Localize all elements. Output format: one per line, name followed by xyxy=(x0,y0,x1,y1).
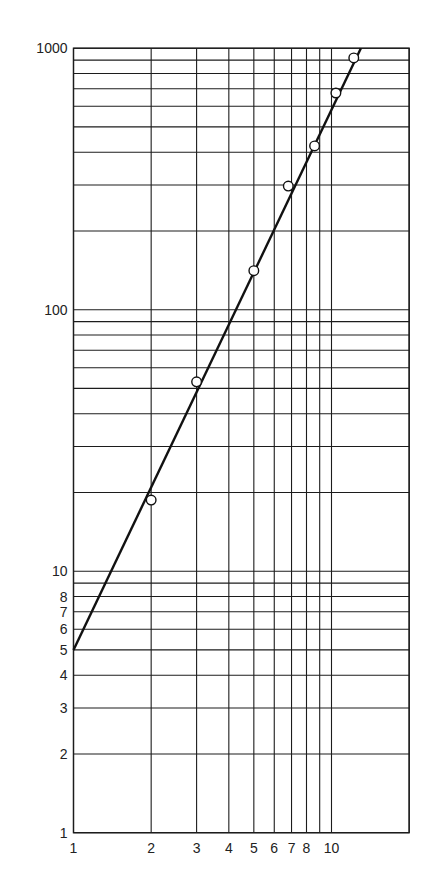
data-point-marker xyxy=(310,141,320,151)
data-point-marker xyxy=(192,377,202,387)
x-tick-label: 1 xyxy=(70,840,78,856)
y-tick-label: 2 xyxy=(60,746,68,762)
y-tick-label: 6 xyxy=(60,621,68,637)
x-tick-label: 8 xyxy=(303,840,311,856)
gridlines xyxy=(74,48,410,833)
y-tick-label: 10 xyxy=(52,563,68,579)
fit-line xyxy=(74,48,361,650)
y-tick-label: 1 xyxy=(60,825,68,841)
data-point-marker xyxy=(146,495,156,505)
y-tick-label: 1000 xyxy=(36,40,67,56)
data-point-marker xyxy=(349,53,359,63)
x-tick-label: 10 xyxy=(324,840,340,856)
data-point-marker xyxy=(283,181,293,191)
x-tick-label: 7 xyxy=(288,840,296,856)
y-tick-label: 5 xyxy=(60,642,68,658)
x-tick-label: 3 xyxy=(193,840,201,856)
y-tick-label: 7 xyxy=(60,604,68,620)
y-tick-label: 3 xyxy=(60,700,68,716)
data-point-marker xyxy=(249,266,259,276)
x-axis-tick-labels: 1234567810 xyxy=(70,840,340,856)
log-log-chart: 1234567810 12345678101001000 xyxy=(0,0,423,893)
y-tick-label: 4 xyxy=(60,667,68,683)
y-tick-label: 100 xyxy=(44,302,68,318)
y-axis-tick-labels: 12345678101001000 xyxy=(36,40,67,841)
data-point-marker xyxy=(331,88,341,98)
plot-frame xyxy=(74,48,410,833)
x-tick-label: 6 xyxy=(270,840,278,856)
x-tick-label: 4 xyxy=(225,840,233,856)
fit-line-path xyxy=(74,48,361,650)
x-tick-label: 5 xyxy=(250,840,258,856)
y-tick-label: 8 xyxy=(60,589,68,605)
x-tick-label: 2 xyxy=(147,840,155,856)
